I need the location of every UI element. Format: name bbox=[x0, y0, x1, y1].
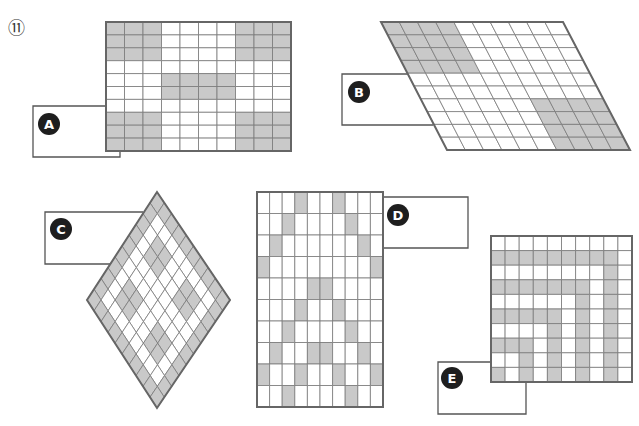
blank-cell bbox=[106, 99, 125, 112]
shaded-cell bbox=[282, 386, 295, 408]
blank-cell bbox=[106, 74, 125, 87]
shaded-cell bbox=[320, 278, 333, 300]
blank-cell bbox=[505, 294, 519, 309]
shaded-cell bbox=[562, 280, 576, 295]
blank-cell bbox=[270, 300, 283, 322]
blank-cell bbox=[533, 324, 547, 339]
shaded-cell bbox=[491, 338, 505, 353]
shaded-cell bbox=[254, 35, 273, 48]
shaded-cell bbox=[143, 48, 162, 61]
blank-cell bbox=[358, 214, 371, 236]
shaded-cell bbox=[576, 309, 590, 324]
blank-cell bbox=[618, 251, 632, 266]
blank-cell bbox=[320, 386, 333, 408]
shaded-cell bbox=[236, 125, 255, 138]
shaded-cell bbox=[282, 321, 295, 343]
shaded-cell bbox=[320, 343, 333, 365]
shaded-cell bbox=[106, 125, 125, 138]
shaded-cell bbox=[125, 112, 144, 125]
shaded-cell bbox=[307, 343, 320, 365]
blank-cell bbox=[618, 338, 632, 353]
blank-cell bbox=[180, 138, 199, 151]
blank-cell bbox=[345, 300, 358, 322]
shaded-cell bbox=[505, 280, 519, 295]
blank-cell bbox=[358, 192, 371, 214]
blank-cell bbox=[295, 214, 308, 236]
blank-cell bbox=[358, 257, 371, 279]
shaded-cell bbox=[576, 324, 590, 339]
blank-cell bbox=[519, 236, 533, 251]
blank-cell bbox=[143, 61, 162, 74]
shaded-cell bbox=[307, 278, 320, 300]
blank-cell bbox=[217, 61, 236, 74]
blank-cell bbox=[547, 294, 561, 309]
shaded-cell bbox=[333, 364, 346, 386]
figure-C: C bbox=[45, 192, 230, 408]
blank-cell bbox=[358, 321, 371, 343]
blank-cell bbox=[333, 321, 346, 343]
shaded-cell bbox=[106, 48, 125, 61]
shaded-cell bbox=[576, 338, 590, 353]
blank-cell bbox=[307, 300, 320, 322]
blank-cell bbox=[519, 324, 533, 339]
blank-cell bbox=[162, 22, 181, 35]
blank-cell bbox=[199, 61, 218, 74]
blank-cell bbox=[505, 367, 519, 382]
blank-cell bbox=[618, 236, 632, 251]
blank-cell bbox=[505, 324, 519, 339]
blank-cell bbox=[143, 74, 162, 87]
shaded-cell bbox=[547, 309, 561, 324]
blank-cell bbox=[257, 192, 270, 214]
blank-cell bbox=[270, 321, 283, 343]
blank-cell bbox=[257, 235, 270, 257]
shaded-cell bbox=[143, 138, 162, 151]
blank-cell bbox=[590, 353, 604, 368]
shaded-cell bbox=[562, 251, 576, 266]
blank-cell bbox=[162, 99, 181, 112]
blank-cell bbox=[562, 338, 576, 353]
blank-cell bbox=[257, 300, 270, 322]
shaded-cell bbox=[217, 74, 236, 87]
blank-cell bbox=[125, 74, 144, 87]
shaded-cell bbox=[125, 138, 144, 151]
blank-cell bbox=[345, 192, 358, 214]
label-letter-E: E bbox=[448, 371, 457, 386]
blank-cell bbox=[576, 265, 590, 280]
shaded-cell bbox=[106, 35, 125, 48]
blank-cell bbox=[125, 61, 144, 74]
blank-cell bbox=[199, 112, 218, 125]
blank-cell bbox=[273, 74, 292, 87]
blank-cell bbox=[358, 386, 371, 408]
blank-cell bbox=[590, 324, 604, 339]
blank-cell bbox=[533, 353, 547, 368]
shaded-cell bbox=[106, 112, 125, 125]
shaded-cell bbox=[547, 324, 561, 339]
blank-cell bbox=[236, 87, 255, 100]
shaded-cell bbox=[576, 367, 590, 382]
blank-cell bbox=[370, 214, 383, 236]
blank-cell bbox=[576, 236, 590, 251]
blank-cell bbox=[505, 265, 519, 280]
shaded-cell bbox=[345, 321, 358, 343]
blank-cell bbox=[125, 99, 144, 112]
blank-cell bbox=[199, 22, 218, 35]
blank-cell bbox=[618, 324, 632, 339]
blank-cell bbox=[533, 294, 547, 309]
shaded-cell bbox=[345, 386, 358, 408]
shaded-cell bbox=[604, 353, 618, 368]
blank-cell bbox=[282, 300, 295, 322]
shaded-cell bbox=[125, 48, 144, 61]
blank-cell bbox=[345, 257, 358, 279]
blank-cell bbox=[491, 265, 505, 280]
shaded-cell bbox=[505, 251, 519, 266]
blank-cell bbox=[345, 235, 358, 257]
blank-cell bbox=[236, 74, 255, 87]
blank-cell bbox=[345, 343, 358, 365]
grid-cells-E bbox=[491, 236, 632, 382]
blank-cell bbox=[180, 99, 199, 112]
shaded-cell bbox=[254, 112, 273, 125]
blank-cell bbox=[370, 321, 383, 343]
shaded-cell bbox=[273, 22, 292, 35]
shaded-cell bbox=[162, 74, 181, 87]
blank-cell bbox=[505, 353, 519, 368]
